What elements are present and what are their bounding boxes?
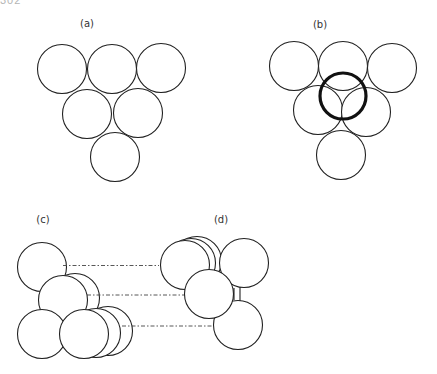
sphere	[91, 133, 140, 182]
page-number: 302	[0, 0, 21, 6]
panel-label-a: (a)	[80, 18, 94, 29]
diagram-canvas	[0, 0, 437, 374]
sphere	[38, 45, 87, 94]
sphere	[368, 44, 417, 93]
sphere	[317, 131, 366, 180]
panel-a-spheres	[38, 44, 186, 182]
panel-b-spheres	[270, 42, 417, 180]
sphere	[185, 270, 234, 319]
sphere	[270, 42, 319, 91]
sphere	[60, 310, 109, 359]
sphere	[137, 44, 186, 93]
panel-label-d: (d)	[214, 214, 228, 225]
panel-c-spheres	[18, 243, 133, 359]
sphere	[114, 89, 163, 138]
panel-label-b: (b)	[313, 19, 327, 30]
sphere	[63, 90, 112, 139]
sphere	[294, 86, 343, 135]
sphere	[88, 45, 137, 94]
panel-d-spheres	[161, 237, 269, 350]
sphere-packing-figure: 302 (a) (b) (c) (d)	[0, 0, 437, 374]
panel-label-c: (c)	[36, 214, 49, 225]
